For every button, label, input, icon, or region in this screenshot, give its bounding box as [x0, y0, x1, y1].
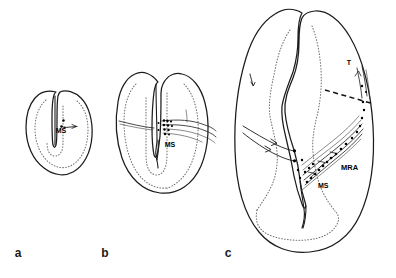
panel-b-soma — [170, 120, 172, 122]
panel-c-soma — [301, 159, 303, 161]
panel-b-soma — [163, 128, 165, 130]
panel-letter-a: a — [15, 246, 22, 260]
panel-b-soma — [163, 124, 165, 126]
panel-c-soma — [326, 161, 329, 164]
panel-c-soma — [359, 125, 361, 127]
label-ms-panel-b: MS — [165, 141, 176, 148]
panel-c-soma — [361, 117, 363, 119]
panel-b-soma — [164, 133, 166, 135]
panel-b-soma — [168, 134, 170, 136]
panel-b-soma — [167, 129, 169, 131]
panel-c-soma — [306, 181, 309, 184]
panel-b-soma — [166, 120, 168, 122]
label-ms-panel-a: MS — [56, 127, 67, 134]
panel-b-soma — [163, 119, 165, 121]
panel-c-soma — [318, 169, 321, 172]
panel-c-soma — [361, 85, 363, 87]
panel-c-terminal — [293, 159, 296, 162]
panel-a-soma — [62, 119, 64, 121]
panel-c-soma — [304, 171, 306, 173]
panel-c-soma — [308, 167, 310, 169]
panel-c-soma — [345, 143, 348, 146]
panel-letter-b: b — [101, 246, 108, 260]
panel-c-soma — [365, 91, 367, 93]
label-mra-panel-c: MRA — [341, 163, 359, 172]
panel-b-soma — [171, 125, 173, 127]
panel-b-soma — [167, 124, 169, 126]
panel-c-soma — [299, 177, 301, 179]
panel-c-terminal — [293, 149, 296, 152]
panel-b-soma — [158, 122, 160, 124]
panel-c-soma — [340, 148, 343, 151]
panel-c-soma — [362, 101, 364, 103]
panel-letter-c: c — [225, 246, 232, 260]
panel-c-soma — [297, 169, 299, 171]
panel-b-soma — [158, 129, 160, 131]
panel-c-soma — [356, 131, 358, 133]
label-ms-panel-c: MS — [318, 182, 329, 189]
panel-c-soma — [363, 109, 365, 111]
panel-c-soma — [351, 137, 353, 139]
panel-c-soma — [312, 163, 314, 165]
anatomical-figure-svg: a MS — [0, 0, 396, 278]
label-t-panel-c: T — [347, 59, 352, 66]
figure-canvas: a MS — [0, 0, 396, 278]
